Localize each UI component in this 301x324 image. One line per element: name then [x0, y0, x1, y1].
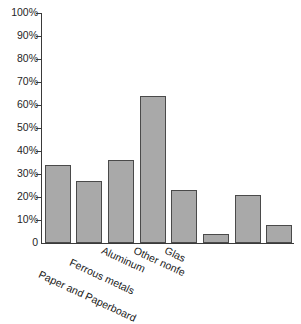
y-tick-label: 30% — [0, 167, 38, 179]
bar — [266, 225, 292, 243]
y-tick-label: 70% — [0, 75, 38, 87]
bar — [76, 181, 102, 243]
y-tick-label: 60% — [0, 98, 38, 110]
bar — [203, 234, 229, 243]
bar — [140, 96, 166, 243]
y-tick-label: 0 — [0, 236, 38, 248]
y-tick-label: 40% — [0, 144, 38, 156]
y-tick-label: 10% — [0, 213, 38, 225]
bar — [108, 160, 134, 243]
plot-area — [41, 13, 294, 243]
y-tick-label: 90% — [0, 29, 38, 41]
bar — [171, 190, 197, 243]
bars-layer — [41, 13, 294, 243]
y-axis-labels: 100%90%80%70%60%50%40%30%20%10%0 — [0, 13, 38, 244]
bar — [235, 195, 261, 243]
y-tick-label: 100% — [0, 6, 38, 18]
x-axis-labels: Paper and PaperboardFerrous metalsAlumin… — [41, 244, 301, 299]
y-tick-label: 20% — [0, 190, 38, 202]
bar — [45, 165, 71, 243]
y-tick-label: 50% — [0, 121, 38, 133]
y-tick-label: 80% — [0, 52, 38, 64]
